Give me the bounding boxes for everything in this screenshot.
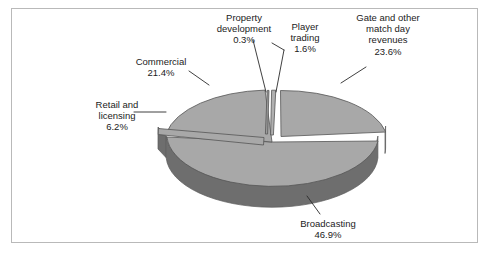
slice-top-gate [281, 90, 386, 136]
slice-value-gate: 23.6% [332, 46, 444, 57]
slice-label-gate-line2: match day [332, 23, 444, 34]
slice-label-gate-line1: Gate and other [332, 12, 444, 23]
slice-label-gate-line3: revenues [332, 34, 444, 45]
slice-value-commercial: 21.4% [118, 67, 204, 78]
slice-value-player-trading: 1.6% [272, 43, 338, 54]
slice-top-player-trading [271, 90, 276, 135]
slice-value-broadcasting: 46.9% [268, 229, 388, 240]
slice-label-commercial: Commercial 21.4% [118, 56, 204, 78]
slice-label-broadcasting-line1: Broadcasting [268, 218, 388, 229]
slice-label-player-trading: Player trading 1.6% [272, 21, 338, 55]
slice-label-player-trading-line2: trading [272, 32, 338, 43]
slice-label-commercial-line1: Commercial [118, 56, 204, 67]
leader-line-property-development [253, 40, 266, 92]
slice-label-broadcasting: Broadcasting 46.9% [268, 218, 388, 240]
slice-label-retail-line2: licensing [78, 110, 156, 121]
slice-label-retail-line1: Retail and [78, 99, 156, 110]
slice-value-retail: 6.2% [78, 121, 156, 132]
leader-line-gate [341, 67, 366, 83]
slice-label-retail: Retail and licensing 6.2% [78, 99, 156, 133]
pie-slices-group [158, 90, 386, 207]
leader-line-player-trading-tail [276, 50, 284, 92]
slice-label-player-trading-line1: Player [272, 21, 338, 32]
slice-label-gate: Gate and other match day revenues 23.6% [332, 12, 444, 57]
pie-chart-screenshot: Property development 0.3% Player trading… [0, 0, 499, 257]
